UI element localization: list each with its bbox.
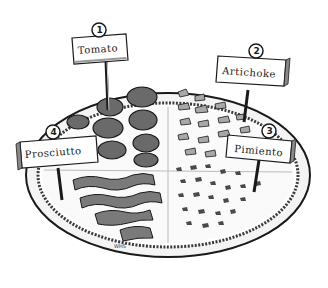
sign-number-2: 2 [254,46,260,56]
pizza-drawing: WHS 1 Tomato 2 Artichoke 3 Pimiento 4 Pr… [0,0,328,288]
sign-number-1: 1 [97,25,103,35]
artist-signature: WHS [114,243,126,249]
sign-number-4: 4 [51,127,57,137]
pizza-illustration: WHS 1 Tomato 2 Artichoke 3 Pimiento 4 Pr… [0,0,328,288]
sign-number-3: 3 [267,126,273,136]
